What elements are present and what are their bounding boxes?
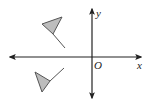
upper-flag-pole bbox=[53, 34, 65, 48]
lower-flag-triangle bbox=[35, 72, 50, 92]
lower-flag-shape bbox=[35, 68, 64, 92]
lower-flag-pole bbox=[50, 68, 64, 81]
x-axis-label: x bbox=[136, 59, 142, 71]
coordinate-plane-diagram: y O x bbox=[0, 0, 153, 101]
upper-flag-shape bbox=[42, 17, 65, 48]
upper-flag-triangle bbox=[42, 17, 62, 34]
origin-label: O bbox=[94, 59, 102, 71]
y-axis-label: y bbox=[95, 7, 101, 19]
